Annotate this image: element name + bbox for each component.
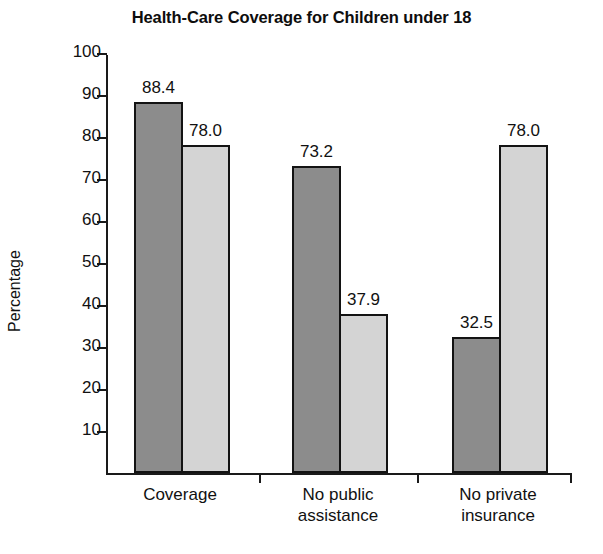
y-axis-tick-label: 30	[82, 336, 101, 356]
bar-value-label: 32.5	[446, 313, 507, 333]
bar-dark-1	[134, 102, 183, 473]
bar-light-2	[339, 314, 388, 473]
bar-light-3	[499, 145, 548, 473]
bar-value-label: 37.9	[333, 290, 394, 310]
bar-dark-3	[452, 337, 501, 474]
y-axis-tick-label: 70	[82, 168, 101, 188]
x-axis-tick-3	[570, 473, 572, 483]
bar-value-label: 78.0	[175, 121, 236, 141]
bar-value-label: 78.0	[493, 121, 554, 141]
y-axis-tick-label: 10	[82, 420, 101, 440]
x-axis-label-2: No public assistance	[248, 484, 428, 526]
y-axis-tick-label: 40	[82, 294, 101, 314]
x-axis-label-3: No private insurance	[408, 484, 588, 526]
plot-area: 102030405060708090100 88.478.073.237.932…	[106, 55, 572, 475]
y-axis-title: Percentage	[6, 216, 24, 366]
bar-chart: Health-Care Coverage for Children under …	[0, 0, 603, 554]
y-axis-tick-label: 50	[82, 252, 101, 272]
bar-value-label: 88.4	[128, 78, 189, 98]
bar-light-1	[181, 145, 230, 473]
x-axis-label-1: Coverage	[90, 484, 270, 505]
y-axis-tick-label: 100	[73, 42, 101, 62]
y-axis-line	[106, 55, 108, 475]
chart-title: Health-Care Coverage for Children under …	[0, 8, 603, 27]
x-axis-tick-1	[259, 473, 261, 483]
y-axis-tick-label: 80	[82, 126, 101, 146]
y-axis-tick-label: 20	[82, 378, 101, 398]
y-axis-tick-label: 60	[82, 210, 101, 230]
y-axis-tick-label: 90	[82, 84, 101, 104]
x-axis-line	[106, 473, 572, 475]
x-axis-tick-2	[417, 473, 419, 483]
bar-dark-2	[292, 166, 341, 473]
bar-value-label: 73.2	[286, 142, 347, 162]
